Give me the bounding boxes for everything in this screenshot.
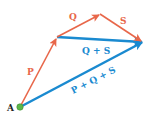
vector-q-s	[57, 37, 142, 42]
vector-p-q-s	[20, 43, 142, 108]
vector-diagram: A P Q S Q + S P + Q + S	[0, 0, 149, 116]
label-a: A	[6, 103, 15, 113]
vector-q	[57, 15, 99, 37]
label-q: Q	[69, 12, 77, 22]
label-p: P	[27, 67, 34, 77]
point-a-marker	[17, 104, 23, 110]
label-q-plus-s: Q + S	[82, 46, 110, 56]
label-s: S	[120, 16, 127, 26]
